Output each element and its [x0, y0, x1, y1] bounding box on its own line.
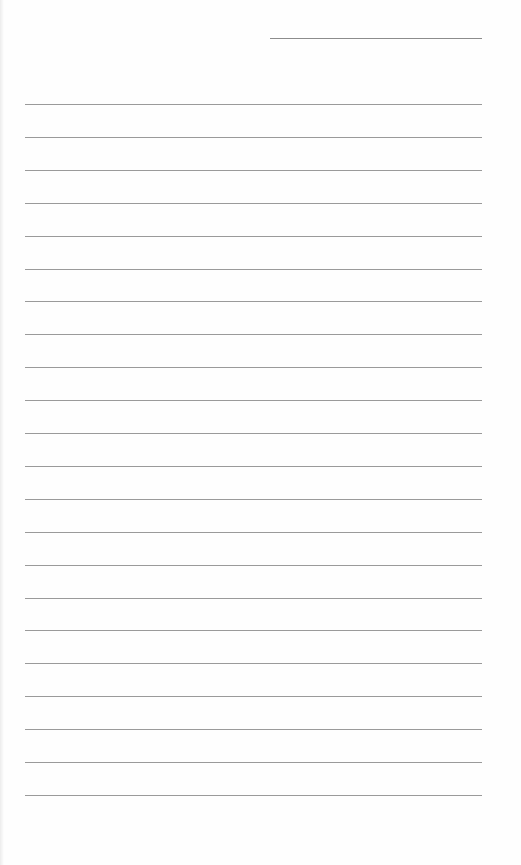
ruled-line	[25, 170, 482, 171]
ruled-line	[25, 269, 482, 270]
ruled-line	[25, 433, 482, 434]
ruled-line	[25, 762, 482, 763]
ruled-line	[25, 630, 482, 631]
ruled-line	[25, 696, 482, 697]
ruled-line	[25, 301, 482, 302]
ruled-line	[25, 499, 482, 500]
ruled-line	[25, 104, 482, 105]
page-edge-shadow	[0, 0, 4, 865]
ruled-line	[25, 367, 482, 368]
ruled-line	[25, 334, 482, 335]
ruled-line	[25, 532, 482, 533]
ruled-line	[25, 663, 482, 664]
ruled-line	[25, 565, 482, 566]
ruled-line	[25, 729, 482, 730]
ruled-line	[25, 400, 482, 401]
ruled-line	[25, 236, 482, 237]
ruled-line	[25, 137, 482, 138]
lined-paper-page	[0, 0, 521, 865]
ruled-line	[25, 203, 482, 204]
ruled-line	[25, 598, 482, 599]
ruled-line	[25, 795, 482, 796]
ruled-line	[25, 466, 482, 467]
header-write-line	[270, 38, 482, 39]
